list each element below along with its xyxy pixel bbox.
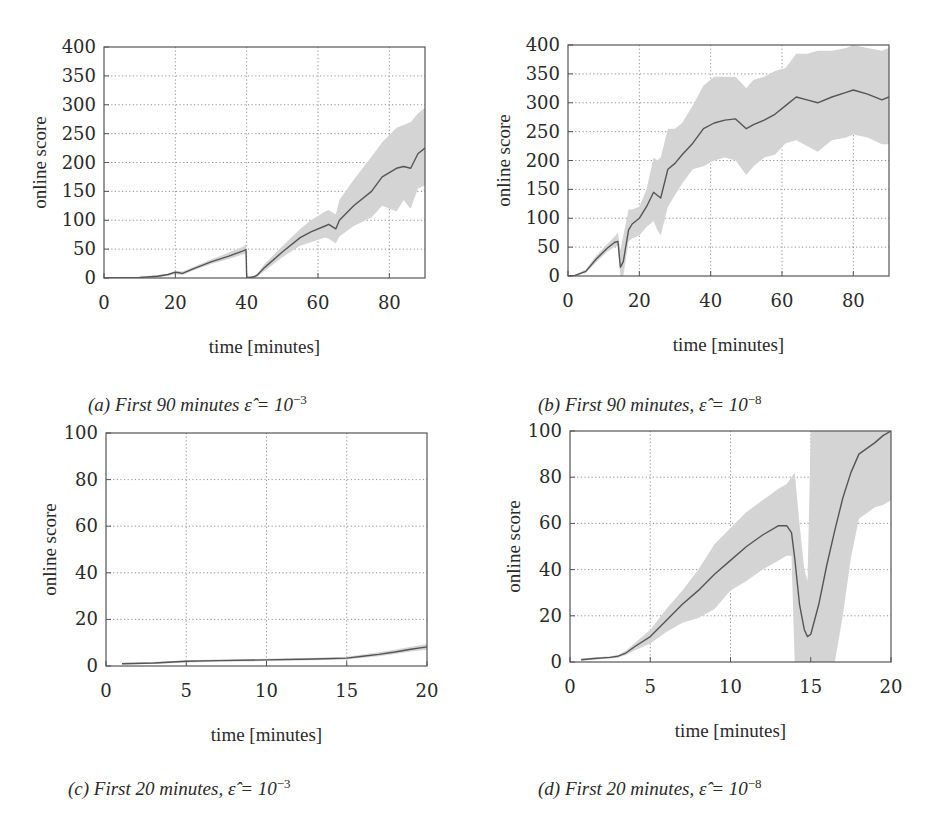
y-tick-label: 0 [551, 651, 562, 672]
caption-d: (d) First 20 minutes, ε̂ = 10−8 [538, 776, 762, 800]
series-mean [581, 431, 891, 662]
x-tick-label: 0 [564, 676, 575, 697]
y-axis-label: online score [503, 500, 524, 592]
chart-panel-d: 05101520020406080100time [minutes]online… [0, 0, 926, 836]
caption-d-text: (d) First 20 minutes, [538, 778, 694, 799]
x-tick-label: 10 [719, 676, 742, 697]
x-axis-label: time [minutes] [675, 720, 786, 741]
y-tick-label: 80 [539, 466, 562, 487]
chart-d-plot: 05101520020406080100time [minutes]online… [0, 0, 926, 836]
y-tick-label: 100 [528, 420, 562, 441]
y-tick-label: 20 [539, 605, 562, 626]
caption-d-math: ε̂ = 10 [699, 778, 748, 799]
y-tick-label: 40 [539, 559, 562, 580]
y-tick-label: 60 [539, 512, 562, 533]
x-tick-label: 20 [880, 676, 903, 697]
confidence-band [581, 431, 891, 662]
x-tick-label: 15 [799, 676, 822, 697]
caption-d-exponent: −8 [748, 776, 762, 791]
x-tick-label: 5 [645, 676, 656, 697]
